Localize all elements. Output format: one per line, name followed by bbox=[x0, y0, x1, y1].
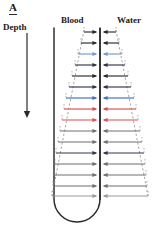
exchange-arrowhead-left bbox=[92, 52, 97, 56]
exchange-arrowhead-left bbox=[92, 96, 97, 100]
exchange-arrowhead-right bbox=[103, 118, 108, 122]
exchange-arrowhead-right bbox=[103, 52, 108, 56]
exchange-diagram bbox=[0, 0, 157, 234]
funnel-right-edge bbox=[116, 30, 148, 196]
exchange-arrowhead-right bbox=[103, 194, 108, 198]
u-tube-loop bbox=[54, 28, 100, 222]
exchange-arrowhead-right bbox=[103, 96, 108, 100]
exchange-arrowhead-left bbox=[92, 41, 97, 45]
exchange-arrowhead-left bbox=[92, 162, 97, 166]
exchange-arrowhead-left bbox=[92, 30, 97, 34]
exchange-arrowhead-right bbox=[103, 173, 108, 177]
exchange-arrowhead-right bbox=[103, 85, 108, 89]
exchange-arrowhead-left bbox=[92, 107, 97, 111]
exchange-arrowhead-left bbox=[92, 118, 97, 122]
exchange-arrowhead-left bbox=[92, 173, 97, 177]
exchange-arrowhead-left bbox=[92, 74, 97, 78]
exchange-arrowhead-right bbox=[103, 30, 108, 34]
exchange-arrowhead-left bbox=[92, 129, 97, 133]
exchange-arrowhead-right bbox=[103, 140, 108, 144]
exchange-arrowhead-right bbox=[103, 63, 108, 67]
u-tube-path bbox=[54, 28, 100, 222]
exchange-arrowhead-right bbox=[103, 129, 108, 133]
exchange-arrowhead-right bbox=[103, 184, 108, 188]
exchange-arrowhead-left bbox=[92, 140, 97, 144]
exchange-arrowhead-right bbox=[103, 107, 108, 111]
figure-panel-a: A Depth Blood Water bbox=[0, 0, 157, 234]
exchange-arrowhead-left bbox=[92, 184, 97, 188]
depth-axis-arrowhead bbox=[24, 111, 30, 118]
exchange-arrowhead-left bbox=[92, 63, 97, 67]
exchange-arrowhead-right bbox=[103, 162, 108, 166]
exchange-arrowhead-left bbox=[92, 194, 97, 198]
exchange-arrowhead-right bbox=[103, 151, 108, 155]
exchange-arrowhead-right bbox=[103, 74, 108, 78]
exchange-arrowhead-right bbox=[103, 41, 108, 45]
exchange-arrowhead-left bbox=[92, 151, 97, 155]
exchange-arrowhead-left bbox=[92, 85, 97, 89]
depth-axis bbox=[24, 33, 30, 118]
funnel-left-edge bbox=[52, 30, 84, 196]
